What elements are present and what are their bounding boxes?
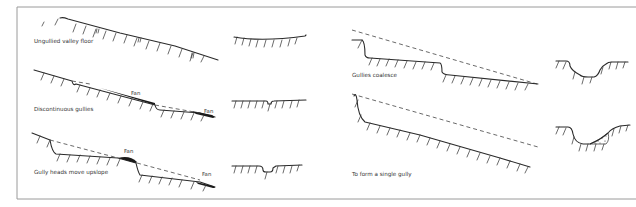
profile-gullies-coalesce: Gullies coalesce [352,30,538,90]
gully-evolution-diagram: Ungullied valley floor Fan Fan Discontin… [0,0,636,207]
profile-single-gully: To form a single gully [351,94,538,178]
cross-section-gully-heads [232,165,302,179]
caption-single-gully: To form a single gully [351,171,412,178]
caption-gully-heads-move-upslope: Gully heads move upslope [34,169,109,176]
fan-label: Fan [202,171,211,177]
profile-ungullied-valley-floor: Ungullied valley floor [34,18,218,62]
caption-gullies-coalesce: Gullies coalesce [352,72,398,78]
caption-ungullied-valley-floor: Ungullied valley floor [34,38,94,45]
figure-frame [17,7,636,199]
fan-label: Fan [204,108,213,114]
fan-label: Fan [131,90,140,96]
fan-label: Fan [124,148,133,154]
cross-section-discontinuous [232,100,306,111]
caption-discontinuous-gullies: Discontinuous gullies [34,106,94,113]
profile-discontinuous-gullies: Fan Fan Discontinuous gullies [34,70,215,121]
profile-gully-heads-move-upslope: Fan Fan Gully heads move upslope [32,133,215,191]
cross-section-coalesce [556,61,628,84]
cross-section-ungullied [234,35,306,47]
cross-section-single-gully [556,125,630,151]
